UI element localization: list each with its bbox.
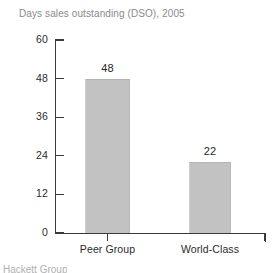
x-axis-category-label: Peer Group [55, 243, 160, 256]
y-axis-line [55, 40, 56, 234]
y-axis-tick-label: 36 [14, 111, 48, 122]
y-axis-tick-label: 48 [14, 73, 48, 84]
x-axis-tick [264, 233, 265, 241]
y-axis-tick-label: 24 [14, 150, 48, 161]
x-axis-tick [107, 233, 108, 241]
bar [85, 79, 130, 233]
y-axis-tick [55, 232, 64, 233]
y-axis-tick [55, 39, 64, 40]
chart-title: Days sales outstanding (DSO), 2005 [19, 7, 185, 20]
bar-value-label: 48 [69, 62, 146, 74]
y-axis-tick [55, 78, 64, 79]
source-note: Hackett Group [3, 264, 67, 273]
y-axis-tick [55, 155, 64, 156]
x-axis-category-label: World-Class [159, 243, 261, 256]
y-axis-tick [55, 194, 64, 195]
y-axis-tick-label: 12 [14, 188, 48, 199]
bar-value-label: 22 [173, 145, 247, 157]
chart-container: Days sales outstanding (DSO), 2005 01224… [0, 0, 276, 273]
y-axis-tick [55, 117, 64, 118]
y-axis-tick-label: 60 [14, 34, 48, 45]
y-axis-tick-label: 0 [14, 227, 48, 238]
bar [189, 162, 231, 233]
